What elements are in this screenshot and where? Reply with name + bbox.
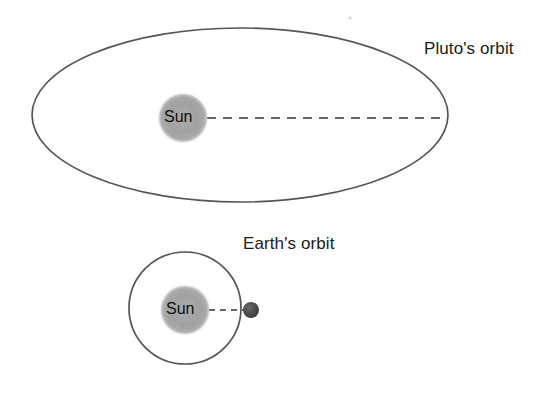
- earth-system-sun-label: Sun: [166, 300, 194, 318]
- pluto-system-sun-label: Sun: [164, 108, 192, 126]
- earth-planet-marker: [243, 302, 259, 318]
- scan-artifact-speck: [348, 16, 351, 19]
- orbit-comparison-diagram: Pluto's orbit Earth's orbit Sun Sun: [0, 0, 558, 396]
- pluto-orbit-ellipse: [32, 28, 448, 202]
- pluto-orbit-label: Pluto's orbit: [424, 39, 514, 59]
- earth-orbit-label: Earth's orbit: [243, 234, 334, 254]
- orbit-diagram-canvas: [0, 0, 558, 396]
